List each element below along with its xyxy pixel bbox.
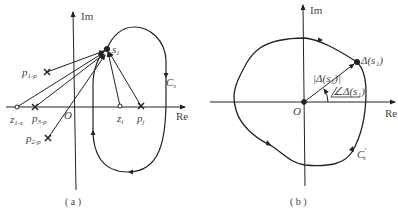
origin-dot-b: [302, 100, 307, 105]
magnitude-label: |Δ(s₁)|: [313, 73, 341, 84]
vector-p2: [48, 55, 105, 138]
panel-b: [210, 5, 395, 186]
pole-p2-marker: [45, 135, 51, 141]
zero-zi: [118, 104, 122, 108]
zero-z1: [15, 105, 19, 109]
origin-label-a: O: [64, 110, 72, 121]
angle-arc: [324, 89, 328, 102]
contour-cs-prime-label: C′s: [357, 148, 366, 162]
point-delta-s1: [354, 59, 359, 64]
contour-arrow-bottom: [128, 170, 133, 175]
point-s1: [104, 46, 109, 51]
pole-pj-marker: [138, 103, 144, 109]
pole-p1-marker: [44, 69, 50, 75]
diagram-canvas: [0, 0, 398, 214]
p3-label: p3-p: [32, 113, 47, 126]
im-axis-b: [303, 5, 305, 186]
origin-label-b: O: [293, 106, 301, 117]
p2-label: p2-p: [26, 133, 41, 146]
z1-label: z1-z: [10, 114, 23, 127]
caption-a: ( a ): [65, 197, 81, 207]
pj-label: pj: [137, 113, 144, 126]
re-label-a: Re: [176, 111, 188, 122]
im-label-b: Im: [310, 5, 322, 16]
contour-b-arrow-lower-left: [266, 140, 272, 146]
panel-a: [6, 12, 185, 190]
contour-cs-label: Cs: [166, 77, 176, 90]
contour-arrow-left: [91, 130, 96, 135]
angle-label: ∠Δ(s₁): [333, 86, 365, 97]
re-label-b: Re: [385, 108, 397, 119]
caption-b: ( b ): [290, 197, 307, 207]
s1-label: s1: [112, 44, 120, 57]
vector-z1: [17, 53, 103, 107]
zi-label: zi: [117, 113, 123, 126]
p1-label: p1-p: [22, 67, 37, 80]
contour-b-arrow-lower-right: [349, 146, 354, 152]
delta-s1-label: Δ(s₁): [361, 55, 383, 66]
im-label-a: Im: [81, 11, 93, 22]
